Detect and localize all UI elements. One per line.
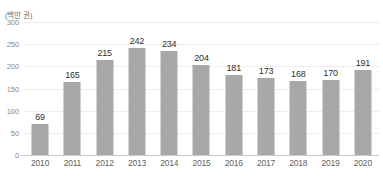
bar-group: 242	[121, 22, 153, 155]
bar-group: 234	[153, 22, 185, 155]
bar[interactable]	[193, 65, 210, 155]
bar-value-label: 165	[65, 70, 79, 80]
bar[interactable]	[225, 75, 242, 155]
bar[interactable]	[322, 80, 339, 155]
bar-value-label: 69	[35, 112, 45, 122]
y-axis-tick-label: 200	[7, 62, 19, 71]
bar[interactable]	[290, 81, 307, 155]
bar-group: 69	[24, 22, 56, 155]
x-axis-tick-labels: 2010201120122013201420152016201720182019…	[24, 158, 379, 174]
bar-group: 168	[282, 22, 314, 155]
bar[interactable]	[32, 124, 49, 155]
bar-group: 173	[250, 22, 282, 155]
bar[interactable]	[128, 48, 145, 155]
bar-value-label: 181	[227, 63, 241, 73]
bar[interactable]	[258, 78, 275, 155]
y-axis-tick-label: 50	[11, 128, 19, 137]
x-axis-tick-label: 2010	[31, 158, 49, 168]
bar-value-label: 234	[162, 39, 176, 49]
bar-chart: (백만 권) 050100150200250300 69165215242234…	[0, 0, 383, 176]
bar-value-label: 173	[259, 66, 273, 76]
bar-value-label: 170	[323, 68, 337, 78]
bar-series: 69165215242234204181173168170191	[24, 22, 379, 155]
x-axis-tick-label: 2019	[322, 158, 340, 168]
bar-group: 165	[56, 22, 88, 155]
x-axis-tick-label: 2018	[289, 158, 307, 168]
y-axis-tick-label: 300	[7, 18, 19, 27]
x-axis-tick-label: 2014	[160, 158, 178, 168]
bar-group: 191	[347, 22, 379, 155]
bar-value-label: 204	[194, 53, 208, 63]
bar-group: 181	[218, 22, 250, 155]
x-axis-tick-label: 2013	[128, 158, 146, 168]
bar[interactable]	[64, 82, 81, 155]
x-axis-tick-label: 2016	[225, 158, 243, 168]
bar-value-label: 191	[356, 58, 370, 68]
bar[interactable]	[96, 60, 113, 155]
x-axis-tick-label: 2020	[354, 158, 372, 168]
x-axis-tick-label: 2012	[96, 158, 114, 168]
y-axis-tick-label: 100	[7, 106, 19, 115]
bar[interactable]	[354, 70, 371, 155]
bar-value-label: 168	[291, 69, 305, 79]
x-axis-tick-label: 2017	[257, 158, 275, 168]
x-axis-tick-label: 2011	[64, 158, 81, 168]
y-axis-tick-label: 250	[7, 40, 19, 49]
bar-value-label: 215	[97, 48, 111, 58]
bar-group: 215	[89, 22, 121, 155]
bar-value-label: 242	[130, 36, 144, 46]
plot-area: 050100150200250300 691652152422342041811…	[24, 22, 379, 155]
x-axis-tick-label: 2015	[192, 158, 210, 168]
bar-group: 170	[314, 22, 346, 155]
bar[interactable]	[161, 51, 178, 155]
axis-baseline	[21, 155, 379, 156]
y-axis-tick-label: 150	[7, 84, 19, 93]
bar-group: 204	[185, 22, 217, 155]
y-axis-tick-label: 0	[15, 151, 19, 160]
